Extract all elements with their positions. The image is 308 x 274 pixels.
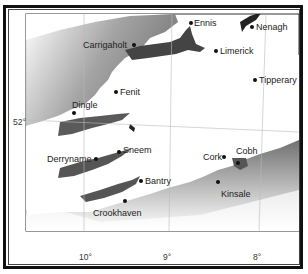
longitude-label: 9° xyxy=(163,253,171,262)
place-marker-icon xyxy=(236,161,240,165)
place-label: Sneem xyxy=(123,146,152,155)
place-label: Carrigaholt xyxy=(83,41,127,50)
longitude-label: 8° xyxy=(253,253,261,262)
latitude-label: 52° xyxy=(13,118,26,127)
place-label: Tipperary xyxy=(259,76,297,85)
place-marker-icon xyxy=(216,180,220,184)
place-marker-icon xyxy=(189,21,193,25)
place-marker-icon xyxy=(94,157,98,161)
place-marker-icon xyxy=(222,155,226,159)
map-canvas xyxy=(0,0,308,274)
place-label: Fenit xyxy=(120,88,140,97)
place-marker-icon xyxy=(72,111,76,115)
place-label: Dingle xyxy=(72,101,98,110)
place-label: Kinsale xyxy=(221,190,251,199)
place-marker-icon xyxy=(250,25,254,29)
place-label: Cork xyxy=(203,153,222,162)
place-label: Bantry xyxy=(145,177,171,186)
place-label: Limerick xyxy=(220,47,254,56)
place-label: Nenagh xyxy=(256,23,288,32)
place-marker-icon xyxy=(253,78,257,82)
place-marker-icon xyxy=(214,49,218,53)
longitude-label: 10° xyxy=(79,253,92,262)
place-label: Derryname xyxy=(47,155,92,164)
place-marker-icon xyxy=(139,179,143,183)
place-marker-icon xyxy=(117,150,121,154)
place-marker-icon xyxy=(123,199,127,203)
place-marker-icon xyxy=(132,43,136,47)
place-label: Ennis xyxy=(194,19,217,28)
place-marker-icon xyxy=(114,90,118,94)
place-label: Crookhaven xyxy=(93,209,142,218)
place-label: Cobh xyxy=(236,147,258,156)
